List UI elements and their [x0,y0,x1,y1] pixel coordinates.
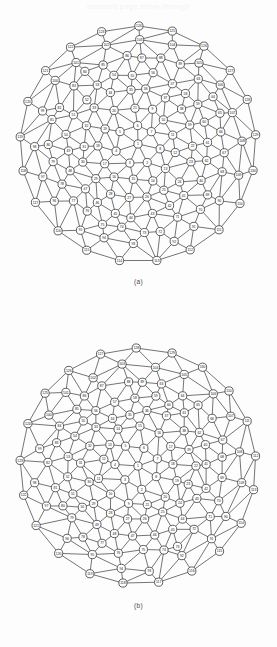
graph-node[interactable]: 79 [68,514,76,522]
graph-node[interactable]: 17 [101,160,109,168]
graph-node[interactable]: 123 [98,28,106,36]
graph-node[interactable]: 1 [134,140,142,148]
graph-node[interactable]: 88 [125,378,133,386]
graph-node[interactable]: 3 [126,159,134,167]
graph-node[interactable]: 53 [64,452,72,460]
graph-node[interactable]: 55 [128,71,136,79]
graph-node[interactable]: 91 [207,535,215,543]
graph-node[interactable]: 5 [121,442,129,450]
graph-node[interactable]: 126 [200,42,208,50]
graph-node[interactable]: 114 [237,519,245,527]
graph-node[interactable]: 70 [215,497,223,505]
graph-node[interactable]: 108 [235,448,243,456]
graph-node[interactable]: 124 [135,22,143,30]
graph-node[interactable]: 52 [83,96,91,104]
graph-node[interactable]: 54 [71,432,79,440]
graph-node[interactable]: 60 [200,118,208,126]
graph-node[interactable]: 24 [176,178,184,186]
graph-node[interactable]: 72 [156,227,164,235]
graph-node[interactable]: 10 [159,116,167,124]
graph-node[interactable]: 99 [36,445,44,453]
graph-node[interactable]: 128 [243,95,251,103]
graph-node[interactable]: 81 [48,115,56,123]
graph-node[interactable]: 14 [114,425,122,433]
graph-node[interactable]: 30 [79,158,87,166]
graph-node[interactable]: 6 [140,444,148,452]
graph-node[interactable]: 78 [79,533,87,541]
graph-node[interactable]: 66 [208,414,216,422]
graph-node[interactable]: 85 [99,61,107,69]
graph-node[interactable]: 89 [138,378,146,386]
graph-node[interactable]: 43 [193,494,201,502]
graph-node[interactable]: 75 [139,545,147,553]
graph-node[interactable]: 13 [161,164,169,172]
graph-node[interactable]: 83 [53,439,61,447]
graph-node[interactable]: 87 [138,54,146,62]
graph-node[interactable]: 124 [24,420,32,428]
graph-node[interactable]: 80 [59,502,67,510]
graph-node[interactable]: 129 [252,131,260,139]
graph-node[interactable]: 28 [106,509,114,517]
graph-node[interactable]: 98 [31,143,39,151]
graph-node[interactable]: 67 [219,436,227,444]
graph-node[interactable]: 9 [148,105,156,113]
graph-node[interactable]: 71 [174,213,182,221]
graph-node[interactable]: 46 [151,531,159,539]
graph-node[interactable]: 123 [16,456,24,464]
graph-node[interactable]: 87 [98,382,106,390]
graph-node[interactable]: 10 [106,490,114,498]
graph-node[interactable]: 41 [180,191,188,199]
graph-node[interactable]: 67 [220,149,228,157]
graph-node[interactable]: 57 [111,398,119,406]
graph-node[interactable]: 12 [100,455,108,463]
graph-node[interactable]: 75 [98,220,106,228]
graph-node[interactable]: 118 [19,167,27,175]
graph-node[interactable]: 74 [160,546,168,554]
graph-node[interactable]: 130 [198,363,206,371]
graph-node[interactable]: 100 [45,411,53,419]
graph-node[interactable]: 76 [114,549,122,557]
graph-node[interactable]: 104 [151,363,159,371]
graph-node[interactable]: 96 [63,534,71,542]
graph-node[interactable]: 30 [85,478,93,486]
graph-node[interactable]: 104 [168,41,176,49]
graph-node[interactable]: 32 [86,442,94,450]
graph-node[interactable]: 9 [125,499,133,507]
graph-node[interactable]: 95 [88,550,96,558]
graph-node[interactable]: 58 [181,89,189,97]
graph-node[interactable]: 73 [173,542,181,550]
graph-node[interactable]: 62 [203,156,211,164]
graph-node[interactable]: 34 [108,414,116,422]
graph-node[interactable]: 20 [110,106,118,114]
graph-node[interactable]: 114 [115,256,123,264]
graph-node[interactable]: 19 [101,125,109,133]
graph-node[interactable]: 76 [83,207,91,215]
graph-node[interactable]: 120 [55,549,63,557]
graph-node[interactable]: 126 [65,366,73,374]
graph-node[interactable]: 15 [129,175,137,183]
graph-node[interactable]: 112 [186,246,194,254]
graph-node[interactable]: 125 [41,389,49,397]
graph-node[interactable]: 130 [249,166,257,174]
graph-node[interactable]: 116 [54,227,62,235]
graph-node[interactable]: 64 [179,392,187,400]
graph-node[interactable]: 39 [186,121,194,129]
graph-node[interactable]: 4 [112,147,120,155]
graph-node[interactable]: 62 [195,428,203,436]
graph-node[interactable]: 61 [180,409,188,417]
graph-node[interactable]: 16 [155,429,163,437]
graph-node[interactable]: 19 [173,477,181,485]
graph-node[interactable]: 23 [184,480,192,488]
graph-node[interactable]: 13 [106,441,114,449]
graph-node[interactable]: 119 [16,133,24,141]
graph-node[interactable]: 102 [89,374,97,382]
graph-node[interactable]: 108 [238,137,246,145]
graph-node[interactable]: 90 [222,512,230,520]
graph-node[interactable]: 38 [180,427,188,435]
graph-node[interactable]: 115 [215,547,223,555]
graph-node[interactable]: 25 [159,508,167,516]
graph-node[interactable]: 93 [129,239,137,247]
graph-node[interactable]: 29 [92,175,100,183]
graph-node[interactable]: 35 [127,86,135,94]
graph-node[interactable]: 105 [195,59,203,67]
